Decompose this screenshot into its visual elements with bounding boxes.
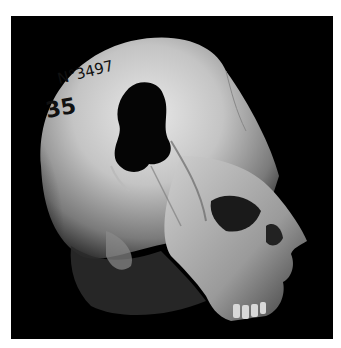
inscription-secondary-number: 35	[44, 93, 79, 123]
svg-text:35: 35	[44, 93, 79, 123]
skull-illustration: N°3497 35	[11, 16, 333, 339]
skull-photograph: N°3497 35	[11, 16, 333, 339]
cranial-hole	[115, 82, 171, 172]
